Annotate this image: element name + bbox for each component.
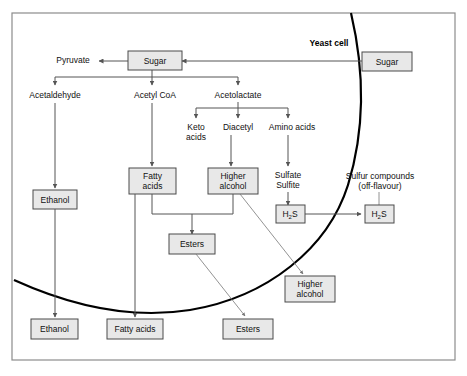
node-fatty-acids-inside-label-line1: Fatty [143, 171, 163, 181]
h2s-outside-s: S [381, 209, 387, 219]
node-acetolactate-label: Acetolactate [215, 90, 262, 100]
edge-fatty-acids-to-esters [152, 194, 192, 234]
node-ethanol-inside-label: Ethanol [41, 195, 70, 205]
node-keto-acids-label-line1: Keto [187, 122, 205, 132]
node-sugar-internal-label: Sugar [144, 56, 167, 66]
node-amino-acids-label: Amino acids [269, 122, 315, 132]
node-higher-alcohol-outside-label-line2: alcohol [297, 289, 324, 299]
node-acetaldehyde-label: Acetaldehyde [29, 90, 81, 100]
node-ethanol-outside-label: Ethanol [40, 324, 69, 334]
yeast-cell-label: Yeast cell [310, 38, 349, 48]
sulfur-compounds-caption-line2: (off-flavour) [358, 181, 401, 191]
node-higher-alcohol-inside-label-line2: alcohol [220, 181, 247, 191]
node-diacetyl-label: Diacetyl [223, 122, 253, 132]
node-fatty-acids-outside-label: Fatty acids [114, 324, 155, 334]
node-higher-alcohol-inside-label-line1: Higher [220, 171, 245, 181]
yeast-metabolism-diagram: Sugar Sugar Pyruvate Yeast cell Acetalde… [0, 0, 467, 376]
edge-higher-alcohol-to-esters [192, 194, 233, 214]
node-sulfite-label: Sulfite [276, 180, 300, 190]
edge-sugar-to-acetolactate [152, 77, 238, 85]
node-acetyl-coa-label: Acetyl CoA [134, 90, 176, 100]
diagram-canvas: Sugar Sugar Pyruvate Yeast cell Acetalde… [0, 0, 467, 376]
node-sugar-external-label: Sugar [376, 57, 399, 67]
edge-sugar-to-acetaldehyde [55, 70, 152, 85]
node-pyruvate-label: Pyruvate [56, 55, 90, 65]
edge-acetolactate-to-amino-acids [238, 108, 288, 118]
node-sulfate-label: Sulfate [275, 170, 302, 180]
node-keto-acids-label-line2: acids [186, 132, 206, 142]
h2s-inside-s: S [292, 209, 298, 219]
sulfur-compounds-caption-line1: Sulfur compounds [346, 171, 415, 181]
node-esters-outside-label: Esters [236, 324, 260, 334]
node-esters-inside-label: Esters [180, 239, 204, 249]
node-higher-alcohol-outside-label-line1: Higher [297, 279, 322, 289]
node-fatty-acids-inside-label-line2: acids [143, 181, 163, 191]
edge-acetolactate-to-keto-acids [196, 102, 238, 118]
